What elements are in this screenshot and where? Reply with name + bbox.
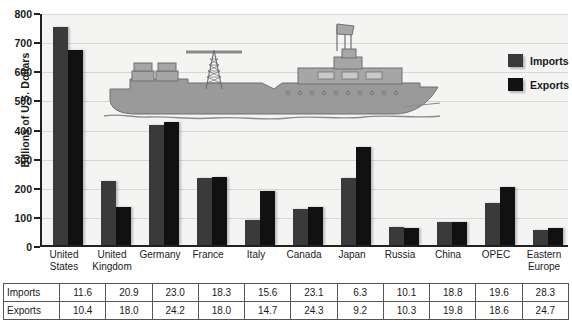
y-tick bbox=[34, 188, 40, 190]
bar-exports bbox=[356, 147, 371, 245]
table-row: Exports10.418.024.218.014.724.39.210.319… bbox=[4, 302, 569, 320]
x-axis-label: UnitedKingdom bbox=[88, 249, 136, 272]
y-tick-label: 100 bbox=[14, 212, 32, 224]
x-axis-label: Canada bbox=[280, 249, 328, 261]
table-cell: 6.3 bbox=[337, 284, 383, 302]
table-cell: 19.6 bbox=[476, 284, 522, 302]
table-cell: 10.3 bbox=[383, 302, 429, 320]
bar-exports bbox=[116, 207, 131, 245]
bar-group bbox=[485, 187, 515, 245]
legend-item-imports: Imports bbox=[508, 54, 569, 67]
y-tick-label: 500 bbox=[14, 95, 32, 107]
bar-group bbox=[53, 27, 83, 245]
x-axis-label: Russia bbox=[376, 249, 424, 261]
y-tick bbox=[34, 246, 40, 248]
table-cell: 23.1 bbox=[291, 284, 337, 302]
chart-legend: Imports Exports bbox=[508, 54, 569, 102]
y-tick bbox=[34, 130, 40, 132]
table-row: Imports11.620.923.018.315.623.16.310.118… bbox=[4, 284, 569, 302]
bar-group bbox=[245, 191, 275, 245]
bar-exports bbox=[212, 177, 227, 245]
table-cell: 18.0 bbox=[198, 302, 244, 320]
table-cell: 18.3 bbox=[198, 284, 244, 302]
table-cell: 28.3 bbox=[522, 284, 568, 302]
y-tick bbox=[34, 13, 40, 15]
bar-imports bbox=[101, 181, 116, 245]
table-cell: 20.9 bbox=[106, 284, 152, 302]
data-table: Imports11.620.923.018.315.623.16.310.118… bbox=[3, 283, 569, 320]
bar-exports bbox=[68, 50, 83, 245]
y-tick bbox=[34, 159, 40, 161]
table-cell: 24.2 bbox=[152, 302, 198, 320]
y-tick-label: 300 bbox=[14, 154, 32, 166]
bar-imports bbox=[197, 178, 212, 245]
bar-group bbox=[197, 177, 227, 245]
bar-exports bbox=[500, 187, 515, 245]
table-cell: 10.4 bbox=[60, 302, 106, 320]
table-cell: 10.1 bbox=[383, 284, 429, 302]
bar-imports bbox=[389, 227, 404, 245]
table-row-header: Imports bbox=[4, 284, 60, 302]
bar-group bbox=[101, 181, 131, 245]
y-tick bbox=[34, 100, 40, 102]
bar-group bbox=[149, 122, 179, 245]
bar-imports bbox=[533, 230, 548, 245]
bar-exports bbox=[452, 222, 467, 245]
plot-area: 0100200300400500600700800 bbox=[40, 14, 568, 247]
bar-series-layer bbox=[42, 14, 568, 245]
legend-label-imports: Imports bbox=[530, 55, 569, 67]
x-axis-label: France bbox=[184, 249, 232, 261]
bar-group bbox=[389, 227, 419, 245]
table-cell: 24.7 bbox=[522, 302, 568, 320]
bar-exports bbox=[260, 191, 275, 245]
x-axis-label: China bbox=[424, 249, 472, 261]
x-axis-categories: UnitedStatesUnitedKingdomGermanyFranceIt… bbox=[40, 249, 568, 279]
y-tick bbox=[34, 42, 40, 44]
bar-group bbox=[533, 228, 563, 245]
legend-item-exports: Exports bbox=[508, 78, 569, 91]
x-axis-label: Italy bbox=[232, 249, 280, 261]
bar-group bbox=[293, 207, 323, 245]
bar-exports bbox=[548, 228, 563, 245]
table-cell: 18.6 bbox=[476, 302, 522, 320]
y-tick-label: 0 bbox=[26, 241, 32, 253]
table-cell: 19.8 bbox=[430, 302, 476, 320]
bar-imports bbox=[293, 209, 308, 245]
table-cell: 23.0 bbox=[152, 284, 198, 302]
table-cell: 11.6 bbox=[60, 284, 106, 302]
table-cell: 18.0 bbox=[106, 302, 152, 320]
bar-imports bbox=[245, 220, 260, 245]
y-tick-label: 700 bbox=[14, 37, 32, 49]
x-axis-label: Japan bbox=[328, 249, 376, 261]
bar-exports bbox=[308, 207, 323, 245]
y-tick-label: 600 bbox=[14, 66, 32, 78]
x-axis-label: EasternEurope bbox=[520, 249, 568, 272]
table-cell: 9.2 bbox=[337, 302, 383, 320]
y-tick-label: 800 bbox=[14, 8, 32, 20]
bar-imports bbox=[149, 125, 164, 245]
bar-group bbox=[341, 147, 371, 245]
bar-exports bbox=[404, 228, 419, 245]
bar-group bbox=[437, 222, 467, 245]
legend-swatch-imports bbox=[508, 54, 523, 67]
bar-imports bbox=[485, 203, 500, 245]
bar-exports bbox=[164, 122, 179, 245]
x-axis-label: Germany bbox=[136, 249, 184, 261]
table-cell: 18.8 bbox=[430, 284, 476, 302]
bar-imports bbox=[341, 178, 356, 245]
legend-label-exports: Exports bbox=[530, 79, 569, 91]
bar-imports bbox=[437, 222, 452, 245]
x-axis-label: OPEC bbox=[472, 249, 520, 261]
bar-imports bbox=[53, 27, 68, 245]
table-cell: 24.3 bbox=[291, 302, 337, 320]
y-tick-label: 200 bbox=[14, 183, 32, 195]
y-tick-label: 400 bbox=[14, 125, 32, 137]
table-cell: 14.7 bbox=[245, 302, 291, 320]
figure: Billions of U.S. Dollars 010020030040050… bbox=[0, 0, 572, 334]
y-axis-title: Billions of U.S. Dollars bbox=[19, 25, 31, 195]
y-tick bbox=[34, 217, 40, 219]
legend-swatch-exports bbox=[508, 78, 523, 91]
y-tick bbox=[34, 71, 40, 73]
x-axis-label: UnitedStates bbox=[40, 249, 88, 272]
table-cell: 15.6 bbox=[245, 284, 291, 302]
